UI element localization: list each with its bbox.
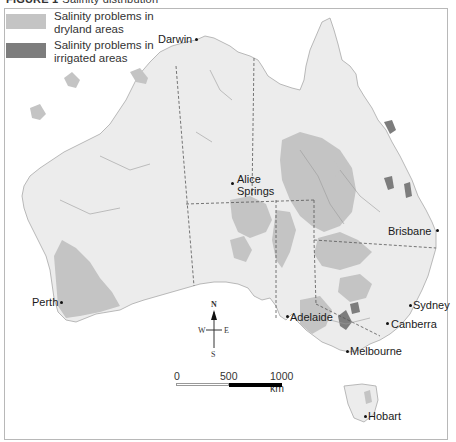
legend: Salinity problems in dryland areas Salin… xyxy=(6,10,164,68)
city-label-brisbane: Brisbane xyxy=(388,225,431,237)
city-label-canberra: Canberra xyxy=(391,318,437,330)
scale-tick-1000: 1000 km xyxy=(270,370,304,394)
legend-item-irrigated: Salinity problems in irrigated areas xyxy=(6,39,164,65)
legend-label-dryland: Salinity problems in dryland areas xyxy=(54,10,164,36)
city-dot-perth xyxy=(60,301,63,304)
city-dot-alice-springs xyxy=(231,182,234,185)
legend-swatch-dryland xyxy=(6,14,46,29)
city-dot-brisbane xyxy=(436,229,439,232)
city-dot-melbourne xyxy=(346,350,349,353)
city-label-melbourne: Melbourne xyxy=(350,345,402,357)
scale-tick-0: 0 xyxy=(174,370,180,382)
city-label-adelaide: Adelaide xyxy=(290,311,333,323)
scale-segment-black xyxy=(229,383,282,387)
compass-rose: N W E S xyxy=(198,300,230,360)
city-label-perth: Perth xyxy=(32,296,58,308)
city-dot-adelaide xyxy=(286,315,289,318)
scale-bar: 0 500 1000 km xyxy=(174,370,304,390)
scale-tick-500: 500 xyxy=(220,370,238,382)
city-label-sydney: Sydney xyxy=(413,299,450,311)
legend-item-dryland: Salinity problems in dryland areas xyxy=(6,10,164,36)
compass-south: S xyxy=(211,350,215,359)
city-dot-canberra xyxy=(386,322,389,325)
city-dot-hobart xyxy=(364,415,367,418)
city-dot-sydney xyxy=(409,304,412,307)
city-label-alice-springs: Alice Springs xyxy=(237,173,281,197)
scale-segment-white xyxy=(176,383,229,386)
compass-east: E xyxy=(224,326,229,335)
city-label-hobart: Hobart xyxy=(368,410,401,422)
legend-label-irrigated: Salinity problems in irrigated areas xyxy=(54,39,164,65)
city-label-darwin: Darwin xyxy=(158,33,192,45)
city-name: Alice Springs xyxy=(237,173,274,197)
compass-west: W xyxy=(198,326,206,335)
legend-swatch-irrigated xyxy=(6,43,46,58)
city-dot-darwin xyxy=(195,38,198,41)
